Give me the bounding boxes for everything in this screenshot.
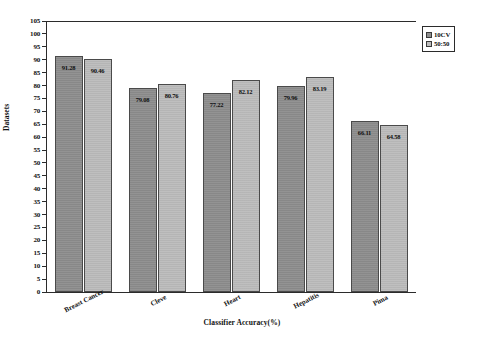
y-axis-tick-label: 15: [33, 248, 42, 258]
bar[interactable]: 77.22: [203, 93, 231, 292]
y-axis-tick-label: 65: [33, 119, 42, 129]
bar[interactable]: 82.12: [232, 80, 260, 292]
bar-value-label: 79.96: [284, 94, 298, 101]
y-axis-tick: 75: [33, 93, 46, 103]
bar-group: 66.1164.58: [351, 21, 408, 292]
bar[interactable]: 80.76: [158, 84, 186, 292]
y-axis-tick-label: 50: [33, 158, 42, 168]
x-axis-category-label: Hepatitis: [292, 291, 320, 310]
y-axis-tick-label: 100: [30, 29, 42, 39]
bar-value-label: 90.46: [91, 67, 105, 74]
y-axis-tick: 5: [37, 274, 46, 284]
bar[interactable]: 66.11: [351, 121, 379, 292]
bar-value-label: 64.58: [387, 133, 401, 140]
legend-item[interactable]: 10CV: [426, 30, 450, 39]
y-axis-tick: 85: [33, 68, 46, 78]
bar-chart-figure: 1051009590858075706560555045403530252015…: [0, 0, 484, 346]
y-axis-tick: 25: [33, 222, 46, 232]
x-axis-category-label: Pima: [372, 294, 389, 308]
y-axis-tick: 70: [33, 106, 46, 116]
bar[interactable]: 83.19: [306, 77, 334, 292]
y-axis-tick-label: 30: [33, 210, 42, 220]
y-axis-tick-label: 20: [33, 235, 42, 245]
legend-swatch-icon: [426, 32, 432, 38]
y-axis-tick: 105: [30, 16, 46, 26]
bar-group: 79.9683.19: [277, 21, 334, 292]
legend-label: 10CV: [434, 31, 450, 38]
y-axis-tick-label: 10: [33, 261, 42, 271]
y-axis-tick-label: 95: [33, 42, 42, 52]
legend-item[interactable]: 50:50: [426, 39, 450, 48]
y-axis-tick: 80: [33, 81, 46, 91]
legend-swatch-icon: [426, 41, 432, 47]
y-axis-title: Datasets: [2, 71, 11, 131]
y-axis-tick: 50: [33, 158, 46, 168]
bar-group: 77.2282.12: [203, 21, 260, 292]
y-axis-tick: 60: [33, 132, 46, 142]
bar-value-label: 66.11: [358, 129, 371, 136]
bar-value-label: 79.08: [136, 96, 150, 103]
y-axis-tick: 20: [33, 235, 46, 245]
bar-group: 79.0880.76: [129, 21, 186, 292]
y-axis-tick-label: 85: [33, 68, 42, 78]
x-axis-category-label: Cleve: [149, 293, 168, 308]
bar-value-label: 83.19: [313, 85, 327, 92]
y-axis-tick: 40: [33, 184, 46, 194]
y-axis-tick-label: 105: [30, 16, 42, 26]
bar-value-label: 91.28: [62, 64, 76, 71]
y-axis-tick-label: 80: [33, 81, 42, 91]
bar-value-label: 77.22: [210, 101, 224, 108]
y-axis-tick-label: 90: [33, 55, 42, 65]
y-axis-tick: 30: [33, 210, 46, 220]
y-axis-tick: 55: [33, 145, 46, 155]
y-axis-tick: 15: [33, 248, 46, 258]
y-axis-tick-label: 40: [33, 184, 42, 194]
bar[interactable]: 79.08: [129, 88, 157, 292]
bar[interactable]: 79.96: [277, 86, 305, 292]
x-axis-category-label: Heart: [223, 293, 242, 308]
y-axis: 1051009590858075706560555045403530252015…: [0, 0, 46, 294]
bar-group: 91.2890.46: [55, 21, 112, 292]
y-axis-tick: 45: [33, 171, 46, 181]
y-axis-tick-label: 75: [33, 93, 42, 103]
y-axis-tick: 100: [30, 29, 46, 39]
x-axis-title: Classifier Accuracy(%): [0, 318, 484, 327]
y-axis-tick: 0: [37, 287, 46, 297]
y-axis-tick-label: 70: [33, 106, 42, 116]
bar-value-label: 80.76: [165, 92, 179, 99]
y-axis-tick: 65: [33, 119, 46, 129]
y-axis-tick-label: 25: [33, 222, 42, 232]
bar-value-label: 82.12: [239, 88, 253, 95]
y-axis-tick: 90: [33, 55, 46, 65]
y-axis-tick-label: 45: [33, 171, 42, 181]
bar[interactable]: 90.46: [84, 59, 112, 292]
y-axis-tick-label: 35: [33, 197, 42, 207]
chart-legend: 10CV50:50: [422, 26, 455, 52]
bar[interactable]: 64.58: [380, 125, 408, 292]
legend-label: 50:50: [434, 40, 449, 47]
bars-layer: 91.2890.4679.0880.7677.2282.1279.9683.19…: [46, 21, 416, 292]
y-axis-tick-label: 60: [33, 132, 42, 142]
y-axis-tick: 10: [33, 261, 46, 271]
bar[interactable]: 91.28: [55, 56, 83, 292]
y-axis-tick: 95: [33, 42, 46, 52]
y-axis-tick: 35: [33, 197, 46, 207]
y-axis-tick-label: 55: [33, 145, 42, 155]
